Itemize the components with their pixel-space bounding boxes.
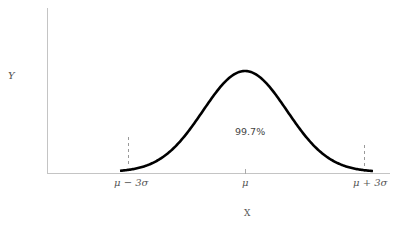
y-axis-label: Y bbox=[8, 70, 15, 81]
tick-label-mu-plus-3sigma: μ + 3σ bbox=[353, 177, 387, 188]
chart-canvas bbox=[0, 0, 399, 228]
area-percentage-label: 99.7% bbox=[235, 126, 265, 137]
tick-label-mu-minus-3sigma: μ − 3σ bbox=[114, 177, 148, 188]
bell-curve bbox=[120, 71, 373, 171]
x-axis-label: X bbox=[244, 208, 250, 218]
tick-label-mu: μ bbox=[242, 177, 249, 188]
